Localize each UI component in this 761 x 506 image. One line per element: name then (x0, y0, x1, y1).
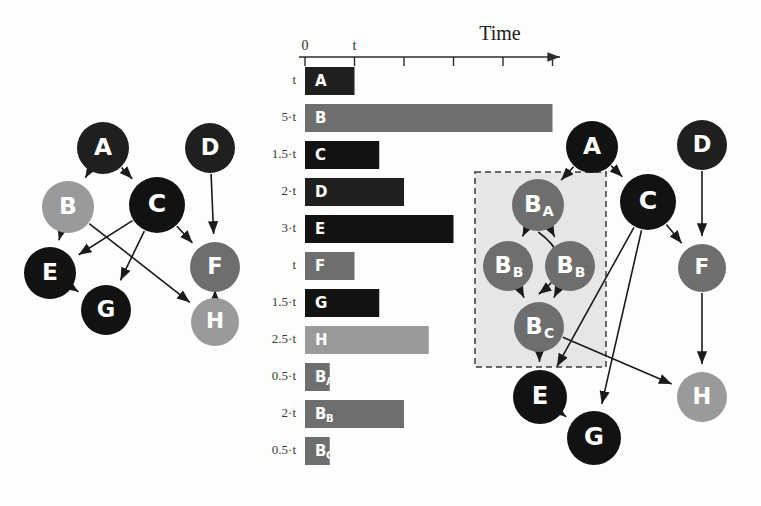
edge-E-to-G (562, 414, 566, 417)
edge-C-to-F (666, 224, 681, 243)
node-sublabel-BC: C (544, 325, 554, 341)
graph-node-BB2[interactable]: BB (545, 241, 595, 291)
node-label-E: E (532, 381, 549, 410)
node-label-BA: B (524, 190, 542, 218)
edge-A-to-C (611, 166, 622, 177)
node-label-BB2: B (556, 252, 573, 278)
expanded-task-graph: ADCBABBBBBCFEGH (0, 0, 761, 506)
node-label-G: G (584, 422, 604, 451)
node-sublabel-BB1: B (513, 264, 524, 280)
node-sublabel-BB2: B (575, 264, 586, 280)
node-label-H: H (693, 383, 712, 409)
graph-node-H[interactable]: H (677, 372, 727, 422)
graph-node-G[interactable]: G (567, 411, 621, 465)
graph-node-C[interactable]: C (620, 174, 676, 230)
node-label-F: F (695, 254, 710, 279)
node-label-BC: B (525, 313, 542, 339)
edge-C-to-G (602, 230, 642, 404)
graph-node-BA[interactable]: BA (512, 179, 564, 231)
graph-node-BC[interactable]: BC (514, 302, 564, 352)
node-sublabel-BA: A (542, 203, 554, 219)
graph-node-F[interactable]: F (678, 244, 726, 292)
graph-node-A[interactable]: A (566, 121, 618, 173)
graph-node-BB1[interactable]: BB (483, 241, 533, 291)
node-label-BB1: B (494, 252, 511, 278)
figure-root: ABCDEFGH 0t Time AtB5·tC1.5·tD2·tE3·tFtG… (0, 0, 761, 506)
node-label-C: C (639, 186, 658, 215)
graph-node-E[interactable]: E (513, 370, 567, 424)
node-label-D: D (693, 131, 712, 157)
graph-node-D[interactable]: D (677, 120, 727, 170)
node-label-A: A (583, 132, 601, 160)
